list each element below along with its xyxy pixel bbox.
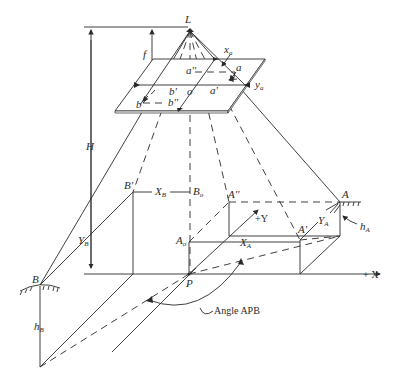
label-B-prime: B' — [124, 179, 134, 191]
label-plus-X: + X — [363, 269, 379, 280]
label-A-prime: A' — [297, 223, 308, 235]
label-h-A: hA — [360, 220, 371, 234]
h-a-leader — [343, 216, 357, 224]
label-L: L — [184, 13, 191, 25]
label-B-o: Bo — [193, 185, 204, 199]
label-x-a: xa — [223, 43, 233, 57]
b-foot-to-p — [40, 274, 189, 367]
label-A-double-prime: A'' — [227, 188, 240, 200]
label-b-double-prime: b'' — [168, 96, 179, 108]
label-Y-B: YB — [78, 234, 89, 248]
label-b: b — [136, 98, 142, 110]
label-Y-A: YA — [318, 214, 329, 228]
label-y-a: ya — [254, 78, 264, 92]
point-b-prime-group: B' XB Bo — [124, 179, 204, 274]
label-plus-Y: +Y — [255, 213, 268, 224]
angle-leader — [200, 308, 213, 314]
label-h-B: hB — [34, 320, 45, 334]
label-a-double-prime: a'' — [186, 64, 197, 76]
label-A-o: Ao — [175, 234, 187, 248]
arc-arrow-left-icon — [146, 296, 153, 303]
ground-symbol-a — [326, 202, 361, 213]
label-X-B: XB — [154, 185, 167, 199]
label-a: a — [236, 61, 242, 73]
y-axis-extension — [112, 268, 196, 352]
label-a-prime: a' — [210, 84, 219, 96]
label-P: P — [185, 277, 193, 289]
label-f: f — [143, 48, 148, 60]
label-A: A — [341, 188, 349, 200]
label-X-A: XA — [239, 236, 252, 250]
label-angle-APB: Angle APB — [214, 305, 260, 316]
label-o: o — [187, 85, 193, 97]
label-H: H — [85, 140, 95, 152]
label-B: B — [32, 273, 39, 285]
vertical-photo-geometry-diagram: H f L — [0, 0, 395, 385]
